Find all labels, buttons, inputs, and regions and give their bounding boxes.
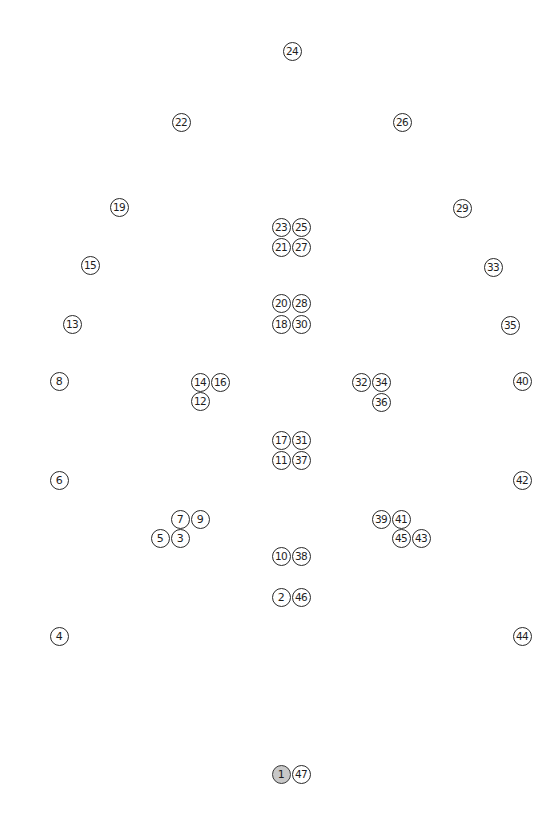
point-marker-1[interactable]: 1 [272,765,291,784]
point-marker-14[interactable]: 14 [191,373,210,392]
point-marker-20[interactable]: 20 [272,294,291,313]
point-marker-35[interactable]: 35 [501,316,520,335]
point-marker-5[interactable]: 5 [151,529,170,548]
point-marker-23[interactable]: 23 [272,218,291,237]
point-marker-16[interactable]: 16 [211,373,230,392]
point-marker-8[interactable]: 8 [50,372,69,391]
point-marker-21[interactable]: 21 [272,238,291,257]
point-marker-9[interactable]: 9 [191,510,210,529]
point-marker-13[interactable]: 13 [63,315,82,334]
point-marker-46[interactable]: 46 [292,588,311,607]
point-marker-38[interactable]: 38 [292,547,311,566]
point-marker-40[interactable]: 40 [513,372,532,391]
point-marker-33[interactable]: 33 [484,258,503,277]
point-marker-4[interactable]: 4 [50,627,69,646]
point-marker-6[interactable]: 6 [50,471,69,490]
point-marker-7[interactable]: 7 [171,510,190,529]
point-marker-3[interactable]: 3 [171,529,190,548]
point-marker-44[interactable]: 44 [513,627,532,646]
point-marker-11[interactable]: 11 [272,451,291,470]
point-marker-42[interactable]: 42 [513,471,532,490]
point-marker-30[interactable]: 30 [292,315,311,334]
point-marker-29[interactable]: 29 [453,199,472,218]
point-marker-24[interactable]: 24 [283,42,302,61]
point-marker-32[interactable]: 32 [352,373,371,392]
point-marker-15[interactable]: 15 [81,256,100,275]
point-marker-25[interactable]: 25 [292,218,311,237]
point-marker-27[interactable]: 27 [292,238,311,257]
point-marker-28[interactable]: 28 [292,294,311,313]
point-marker-43[interactable]: 43 [412,529,431,548]
point-marker-31[interactable]: 31 [292,431,311,450]
point-marker-34[interactable]: 34 [372,373,391,392]
point-marker-2[interactable]: 2 [272,588,291,607]
point-marker-18[interactable]: 18 [272,315,291,334]
point-marker-19[interactable]: 19 [110,198,129,217]
point-marker-41[interactable]: 41 [392,510,411,529]
point-map-canvas: 1234567891011121314151617181920212223242… [0,0,560,836]
point-marker-36[interactable]: 36 [372,393,391,412]
point-marker-26[interactable]: 26 [393,113,412,132]
point-marker-39[interactable]: 39 [372,510,391,529]
point-marker-37[interactable]: 37 [292,451,311,470]
point-marker-47[interactable]: 47 [292,765,311,784]
point-marker-12[interactable]: 12 [191,392,210,411]
point-marker-17[interactable]: 17 [272,431,291,450]
point-marker-22[interactable]: 22 [172,113,191,132]
point-marker-45[interactable]: 45 [392,529,411,548]
point-marker-10[interactable]: 10 [272,547,291,566]
